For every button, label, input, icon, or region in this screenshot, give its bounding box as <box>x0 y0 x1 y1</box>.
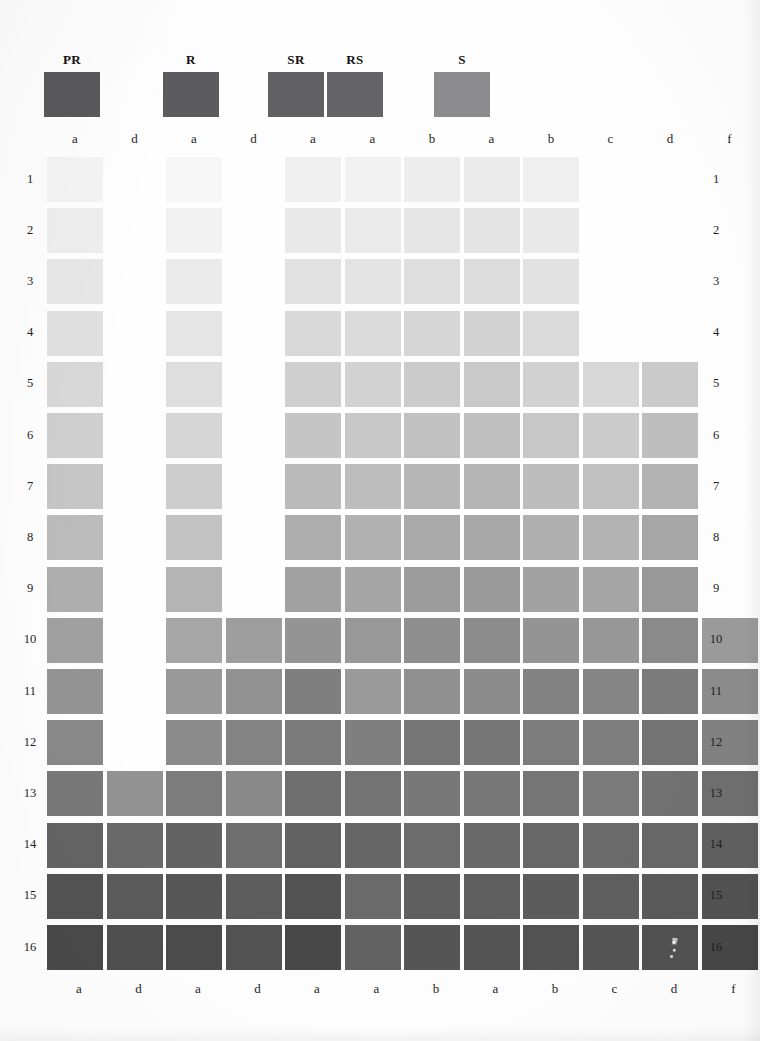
row-label-right: 9 <box>704 581 728 596</box>
reference-swatch <box>434 72 490 117</box>
tone-cell <box>345 669 401 714</box>
tone-cell <box>226 925 282 970</box>
tone-cell <box>464 259 520 304</box>
tone-cell <box>583 771 639 816</box>
tone-cell <box>285 311 341 356</box>
tone-cell <box>107 771 163 816</box>
row-label-left: 13 <box>18 786 42 801</box>
column-label-bottom: d <box>646 981 702 997</box>
tone-cell <box>166 464 222 509</box>
tone-cell <box>583 567 639 612</box>
row-label-right: 16 <box>704 940 728 955</box>
tone-cell <box>285 874 341 919</box>
tone-cell <box>107 823 163 868</box>
tone-cell <box>226 618 282 663</box>
row-label-right: 3 <box>704 274 728 289</box>
tone-cell <box>642 874 698 919</box>
tone-cell <box>285 515 341 560</box>
tone-cell <box>345 362 401 407</box>
tone-cell <box>583 515 639 560</box>
tone-cell <box>642 464 698 509</box>
column-label-top: a <box>464 131 520 147</box>
tone-cell <box>523 567 579 612</box>
row-label-right: 2 <box>704 223 728 238</box>
row-label-right: 4 <box>704 325 728 340</box>
tone-cell <box>464 874 520 919</box>
tone-cell <box>345 311 401 356</box>
tone-cell <box>404 874 460 919</box>
row-label-left: 14 <box>18 837 42 852</box>
row-label-right: 12 <box>704 735 728 750</box>
tone-cell <box>345 464 401 509</box>
tone-cell <box>285 669 341 714</box>
tone-cell <box>285 823 341 868</box>
row-label-right: 7 <box>704 479 728 494</box>
tone-cell <box>285 259 341 304</box>
tone-cell <box>285 208 341 253</box>
tone-cell <box>166 208 222 253</box>
tone-cell <box>345 720 401 765</box>
tone-cell <box>404 362 460 407</box>
tone-cell <box>583 669 639 714</box>
tone-cell <box>166 362 222 407</box>
column-label-top: d <box>226 131 282 147</box>
tone-cell <box>166 567 222 612</box>
tone-cell <box>464 925 520 970</box>
tone-cell <box>523 311 579 356</box>
tone-cell <box>583 720 639 765</box>
tone-cell <box>523 413 579 458</box>
page-bottom-shadow <box>0 1027 760 1041</box>
reference-swatch-label: S <box>434 52 490 68</box>
tone-cell <box>285 362 341 407</box>
tone-cell <box>166 874 222 919</box>
reference-swatch <box>44 72 100 117</box>
tone-cell <box>523 464 579 509</box>
tone-cell <box>464 311 520 356</box>
tone-cell <box>642 925 698 970</box>
tone-cell <box>642 771 698 816</box>
tone-cell <box>642 823 698 868</box>
chart-sheet: PRRSRRSS adadaababcdf 123456789101112131… <box>0 0 760 1041</box>
row-label-right: 1 <box>704 172 728 187</box>
tone-cell <box>523 874 579 919</box>
tone-cell <box>464 464 520 509</box>
tone-cell <box>642 618 698 663</box>
column-label-bottom: c <box>587 981 643 997</box>
tone-cell <box>583 362 639 407</box>
column-label-top: a <box>166 131 222 147</box>
row-label-right: 5 <box>704 376 728 391</box>
column-label-top: a <box>47 131 103 147</box>
tone-cell <box>404 259 460 304</box>
tone-cell <box>285 618 341 663</box>
tone-cell <box>464 157 520 202</box>
tone-cell <box>345 618 401 663</box>
tone-cell <box>464 362 520 407</box>
tone-cell <box>642 413 698 458</box>
tone-cell <box>523 618 579 663</box>
column-label-bottom: a <box>170 981 226 997</box>
tone-cell <box>523 362 579 407</box>
row-label-left: 10 <box>18 632 42 647</box>
tone-cell <box>642 567 698 612</box>
column-label-top: f <box>702 131 758 147</box>
column-label-top: a <box>285 131 341 147</box>
row-label-right: 11 <box>704 684 728 699</box>
row-label-right: 14 <box>704 837 728 852</box>
tone-cell <box>345 771 401 816</box>
tone-cell <box>464 618 520 663</box>
tone-cell <box>523 925 579 970</box>
column-label-top: b <box>523 131 579 147</box>
tone-cell <box>523 515 579 560</box>
tone-cell <box>345 208 401 253</box>
tone-cell <box>166 669 222 714</box>
column-label-top: d <box>107 131 163 147</box>
tone-cell <box>464 720 520 765</box>
tone-cell <box>285 720 341 765</box>
row-label-left: 2 <box>18 223 42 238</box>
tone-cell <box>583 413 639 458</box>
tone-cell <box>47 413 103 458</box>
row-label-left: 11 <box>18 684 42 699</box>
tone-cell <box>404 618 460 663</box>
row-label-left: 8 <box>18 530 42 545</box>
tone-cell <box>166 259 222 304</box>
